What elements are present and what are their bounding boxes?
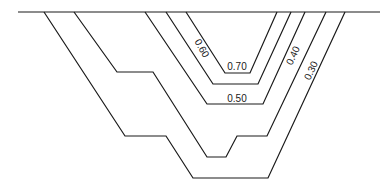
contour-label-0-40: 0.40: [284, 44, 302, 67]
contour-0-50: [145, 12, 305, 104]
contour-label-0-70: 0.70: [227, 61, 247, 72]
contour-0-30: [44, 12, 345, 178]
contour-label-0-50: 0.50: [227, 93, 247, 104]
isoline-diagram: 0.70 0.60 0.50 0.40 0.30: [0, 0, 392, 190]
